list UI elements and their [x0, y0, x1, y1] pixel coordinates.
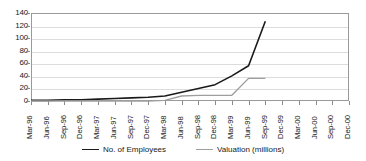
y-tick-mark	[26, 13, 30, 14]
x-tick-label: Sep-00	[327, 115, 335, 139]
legend-line-swatch	[82, 149, 99, 150]
x-tick-label: Mar-97	[93, 116, 101, 139]
x-tick-label: Mar-98	[160, 116, 168, 139]
x-tick-label: Sep-98	[194, 115, 202, 139]
y-axis: 020406080100120140	[0, 0, 28, 120]
y-tick-mark	[26, 76, 30, 77]
y-tick-label: 40	[0, 72, 28, 80]
y-tick-label: 80	[0, 47, 28, 55]
y-tick-label: 120	[0, 22, 28, 30]
y-tick-mark	[26, 63, 30, 64]
y-tick-label: 60	[0, 59, 28, 67]
x-tick-label: Dec-96	[76, 115, 84, 139]
x-tick-label: Dec-00	[344, 115, 352, 139]
y-tick-mark	[26, 51, 30, 52]
y-tick-label: 100	[0, 34, 28, 42]
x-tick-label: Mar-96	[26, 116, 34, 139]
chart-legend: No. of EmployeesValuation (millions)	[0, 142, 366, 156]
legend-label: Valuation (millions)	[217, 145, 284, 154]
x-tick-label: Jun-00	[311, 116, 319, 139]
x-tick-label: Dec-97	[143, 115, 151, 139]
y-tick-label: 140	[0, 9, 28, 17]
x-tick-label: Dec-99	[277, 115, 285, 139]
x-tick-label: Jun-98	[177, 116, 185, 139]
y-tick-mark	[26, 88, 30, 89]
x-tick-label: Mar-99	[227, 116, 235, 139]
y-tick-mark	[26, 38, 30, 39]
y-tick-mark	[26, 26, 30, 27]
x-tick-label: Dec-98	[210, 115, 218, 139]
series-line	[31, 21, 265, 100]
legend-entry[interactable]: Valuation (millions)	[196, 145, 284, 154]
x-tick-label: Jun-99	[244, 116, 252, 139]
x-tick-label: Sep-96	[60, 115, 68, 139]
series-container	[31, 13, 349, 101]
y-tick-mark	[26, 101, 30, 102]
x-tick-label: Sep-99	[261, 115, 269, 139]
x-tick-label: Mar-00	[294, 116, 302, 139]
y-tick-label: 0	[0, 97, 28, 105]
x-axis: Mar-96Jun-96Sep-96Dec-96Mar-97Jun-97Sep-…	[31, 105, 349, 139]
x-tick-mark	[349, 101, 350, 105]
employees-valuation-line-chart: 020406080100120140 Mar-96Jun-96Sep-96Dec…	[0, 0, 366, 161]
x-tick-label: Sep-97	[127, 115, 135, 139]
x-tick-label: Jun-97	[110, 116, 118, 139]
x-tick-label: Jun-96	[43, 116, 51, 139]
legend-entry[interactable]: No. of Employees	[82, 145, 166, 154]
legend-line-swatch	[196, 149, 213, 150]
y-tick-label: 20	[0, 84, 28, 92]
legend-label: No. of Employees	[103, 145, 166, 154]
